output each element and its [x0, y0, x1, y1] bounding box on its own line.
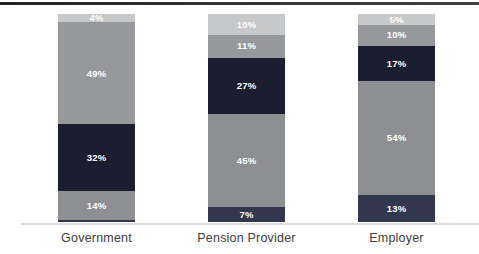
- bar-pension-provider: 10%11%27%45%7%: [208, 14, 285, 222]
- bar-segment-dark-navy-segment-employer: 17%: [358, 46, 435, 82]
- segment-value-label: 11%: [237, 41, 256, 51]
- segment-value-label: 17%: [387, 59, 407, 69]
- category-label-pension-provider: Pension Provider: [172, 231, 322, 245]
- segment-value-label: 32%: [87, 153, 107, 163]
- segment-value-label: 5%: [389, 15, 403, 25]
- chart-canvas: 4%49%32%14%10%11%27%45%7%5%10%17%54%13% …: [0, 0, 479, 254]
- bar-segment-upper-gray-segment-government: 49%: [58, 22, 135, 124]
- bar-segment-lower-gray-segment-government: 14%: [58, 191, 135, 220]
- segment-value-label: 45%: [237, 156, 257, 166]
- segment-value-label: 7%: [239, 210, 253, 220]
- bar-segment-light-gray-top-segment-pension-provider: 10%: [208, 14, 285, 35]
- bar-segment-upper-gray-segment-employer: 10%: [358, 25, 435, 46]
- bar-segment-lower-gray-segment-employer: 54%: [358, 81, 435, 194]
- bar-employer: 5%10%17%54%13%: [358, 14, 435, 222]
- bar-segment-bottom-navy-segment-government: [58, 220, 135, 222]
- category-label-government: Government: [22, 231, 172, 245]
- bar-segment-light-gray-top-segment-government: 4%: [58, 14, 135, 22]
- bar-segment-bottom-navy-segment-employer: 13%: [358, 195, 435, 222]
- chart-area: 4%49%32%14%10%11%27%45%7%5%10%17%54%13%: [0, 14, 479, 222]
- category-label-employer: Employer: [322, 231, 472, 245]
- bar-segment-bottom-navy-segment-pension-provider: 7%: [208, 207, 285, 222]
- bar-government: 4%49%32%14%: [58, 14, 135, 222]
- bar-segment-light-gray-top-segment-employer: 5%: [358, 14, 435, 25]
- segment-value-label: 49%: [87, 69, 107, 79]
- segment-value-label: 13%: [387, 204, 407, 214]
- segment-value-label: 54%: [387, 133, 407, 143]
- segment-value-label: 10%: [237, 20, 257, 30]
- x-axis-line: [21, 223, 479, 225]
- top-divider-rule: [0, 2, 479, 5]
- bar-segment-lower-gray-segment-pension-provider: 45%: [208, 114, 285, 208]
- bar-segment-upper-gray-segment-pension-provider: 11%: [208, 35, 285, 58]
- bar-segment-dark-navy-segment-pension-provider: 27%: [208, 58, 285, 114]
- segment-value-label: 10%: [387, 30, 407, 40]
- bar-segment-dark-navy-segment-government: 32%: [58, 124, 135, 191]
- segment-value-label: 14%: [87, 201, 107, 211]
- segment-value-label: 27%: [237, 81, 257, 91]
